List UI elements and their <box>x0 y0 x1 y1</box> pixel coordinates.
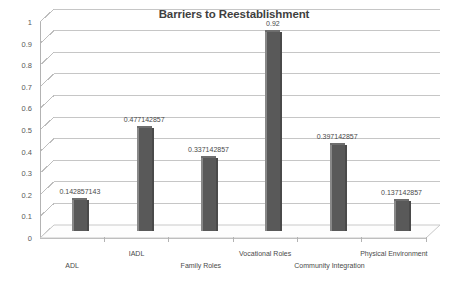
y-tick-label: 0.2 <box>6 190 32 199</box>
bar-top-face <box>394 199 409 201</box>
x-category-label: Community Integration <box>294 262 364 269</box>
x-category-label: ADL <box>65 262 79 269</box>
y-tick-label: 0.1 <box>6 212 32 221</box>
bar-top-face <box>330 143 345 145</box>
gridlines <box>40 9 440 238</box>
bar-value-label: 0.92 <box>266 20 280 27</box>
bar-value-label: 0.477142857 <box>124 116 165 123</box>
bar-value-label: 0.397142857 <box>317 133 358 140</box>
bar-value-label: 0.137142857 <box>381 189 422 196</box>
bar-top-face <box>72 198 87 200</box>
bar-value-label: 0.142857143 <box>59 188 100 195</box>
bar-top-face <box>137 126 152 128</box>
bar-value-label: 0.337142857 <box>188 146 229 153</box>
bar-top-face <box>201 156 216 158</box>
bar[interactable] <box>72 200 87 231</box>
bar[interactable] <box>201 158 216 231</box>
y-tick-label: 0.9 <box>6 39 32 48</box>
axis-lines <box>40 22 426 238</box>
y-tick-label: 0.8 <box>6 61 32 70</box>
y-tick-label: 0.3 <box>6 169 32 178</box>
chart-frame <box>0 0 468 286</box>
bar[interactable] <box>330 145 345 231</box>
x-category-label: Family Roles <box>181 262 221 269</box>
y-tick-label: 0.7 <box>6 82 32 91</box>
bar-top-face <box>265 30 280 32</box>
floor-plane <box>40 225 440 238</box>
y-tick-label: 0 <box>6 234 32 243</box>
y-tick-label: 0.5 <box>6 126 32 135</box>
x-category-label: Physical Environment <box>360 250 427 257</box>
chart-title: Barriers to Reestablishment <box>0 8 468 20</box>
bar[interactable] <box>265 32 280 231</box>
bar[interactable] <box>137 128 152 231</box>
x-category-label: IADL <box>129 250 145 257</box>
plot-area: 00.10.20.30.40.50.60.70.80.91 0.14285714… <box>0 0 468 286</box>
y-tick-label: 0.4 <box>6 147 32 156</box>
bar[interactable] <box>394 201 409 231</box>
x-category-label: Vocational Roles <box>239 250 291 257</box>
y-tick-label: 0.6 <box>6 104 32 113</box>
bar-chart: Barriers to Reestablishment 00.10.20.30.… <box>0 0 468 286</box>
